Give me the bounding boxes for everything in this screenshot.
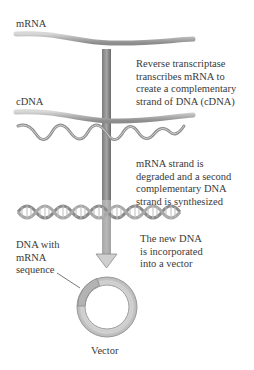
vector-plasmid <box>57 273 137 337</box>
label-cdna: cDNA <box>16 96 43 109</box>
step-2-text: mRNA strand is degraded and a second com… <box>136 158 231 208</box>
label-mrna: mRNA <box>16 18 46 31</box>
mrna-strand <box>16 34 193 43</box>
label-vector: Vector <box>91 345 118 358</box>
label-dna-with-mrna: DNA with mRNA sequence <box>16 239 59 277</box>
insert-leader-line <box>57 273 80 288</box>
step-3-text: The new DNA is incorporated into a vecto… <box>140 233 203 271</box>
step-1-text: Reverse transcriptase transcribes mRNA t… <box>136 58 236 108</box>
process-arrow <box>96 49 117 268</box>
